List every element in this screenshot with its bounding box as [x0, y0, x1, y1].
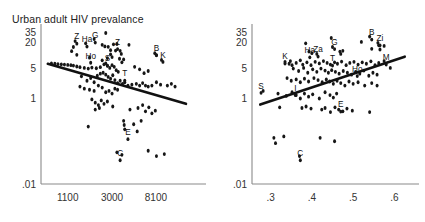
- data-point: [339, 110, 342, 114]
- data-point: [155, 53, 158, 57]
- data-point: [324, 90, 327, 94]
- data-point: [85, 79, 88, 83]
- data-point: [307, 80, 310, 84]
- data-point: [324, 69, 327, 73]
- data-point: [101, 58, 104, 62]
- data-point: [132, 122, 135, 126]
- data-point: [317, 78, 320, 82]
- data-point: [367, 74, 370, 78]
- data-point: [360, 40, 363, 44]
- data-point: [94, 101, 97, 105]
- data-point: [93, 80, 96, 84]
- y-axis-tick-label: 20: [236, 37, 248, 48]
- data-point: [113, 78, 116, 82]
- data-point: [174, 85, 177, 89]
- data-point: [370, 81, 373, 85]
- data-point: [144, 109, 147, 113]
- data-point: [315, 70, 318, 74]
- data-point: [111, 73, 114, 77]
- data-point: [334, 70, 337, 74]
- data-point: [327, 71, 330, 75]
- data-point: [75, 65, 78, 69]
- data-point: [104, 31, 107, 35]
- data-point: [286, 76, 289, 80]
- x-axis-tick-label: .3: [266, 192, 275, 203]
- data-point-label: E: [125, 128, 131, 137]
- data-point: [122, 119, 125, 123]
- y-axis-tick-label: 5: [241, 63, 247, 74]
- data-point: [295, 61, 298, 65]
- data-point: [333, 105, 336, 109]
- data-point: [103, 102, 106, 106]
- data-point: [123, 123, 126, 127]
- data-point: [335, 92, 338, 96]
- data-point-label: Z: [74, 32, 79, 41]
- data-point: [123, 79, 126, 83]
- data-point: [155, 80, 158, 84]
- data-point: [318, 97, 321, 101]
- data-point: [93, 89, 96, 93]
- data-point: [301, 63, 304, 67]
- data-point: [300, 106, 303, 110]
- data-point: [318, 62, 321, 66]
- data-point: [312, 76, 315, 80]
- figure-container: Urban adult HIV prevalance 352051.011100…: [0, 0, 425, 222]
- data-point: [331, 64, 334, 68]
- data-point: [103, 45, 106, 49]
- data-point: [147, 69, 150, 73]
- data-point-label: T: [330, 54, 335, 63]
- data-point: [332, 82, 335, 86]
- data-point: [299, 158, 302, 162]
- scatter-panel-left: Urban adult HIV prevalance 352051.011100…: [0, 0, 212, 222]
- data-point: [70, 49, 73, 53]
- data-point: [138, 67, 141, 71]
- data-point: [345, 63, 348, 67]
- data-point: [357, 80, 360, 84]
- data-point: [126, 137, 129, 141]
- data-point: [101, 86, 104, 90]
- data-point: [147, 105, 150, 109]
- data-point: [339, 52, 342, 56]
- data-point: [340, 60, 343, 64]
- data-point: [72, 64, 75, 68]
- data-point: [97, 84, 100, 88]
- y-axis-tick-label: 35: [25, 27, 37, 38]
- data-point: [378, 43, 381, 47]
- data-point: [299, 80, 302, 84]
- scatter-plot-left: 352051.01110030008100ZGHaZBKHoSTEC: [0, 0, 212, 222]
- data-point: [90, 66, 93, 70]
- data-point: [69, 63, 72, 67]
- data-point: [277, 92, 280, 96]
- data-point-label: Za: [313, 45, 323, 54]
- data-point: [383, 44, 386, 48]
- data-point: [308, 55, 311, 59]
- x-axis-tick-label: .6: [390, 192, 399, 203]
- y-axis-tick-label: 1: [241, 93, 247, 104]
- data-point: [106, 100, 109, 104]
- data-point: [87, 125, 90, 129]
- data-point: [369, 59, 372, 63]
- data-point: [66, 63, 69, 67]
- data-point: [356, 74, 359, 78]
- data-point: [94, 108, 97, 112]
- data-point-label: Ha: [82, 35, 93, 44]
- data-point-label: S: [258, 82, 264, 91]
- data-point: [143, 71, 146, 75]
- data-point: [329, 110, 332, 114]
- data-point: [332, 96, 335, 100]
- data-point: [150, 84, 153, 88]
- data-point: [336, 62, 339, 66]
- data-point: [376, 73, 379, 77]
- data-point: [150, 111, 153, 115]
- data-point: [100, 99, 103, 103]
- data-point: [94, 41, 97, 45]
- y-axis-tick-label: .01: [22, 179, 36, 190]
- data-point: [376, 84, 379, 88]
- data-point: [85, 45, 88, 49]
- data-point: [136, 129, 139, 133]
- data-point-label: K: [160, 51, 166, 60]
- y-axis-tick-label: 35: [236, 27, 248, 38]
- data-point: [88, 88, 91, 92]
- data-point: [122, 58, 125, 62]
- data-point: [144, 84, 147, 88]
